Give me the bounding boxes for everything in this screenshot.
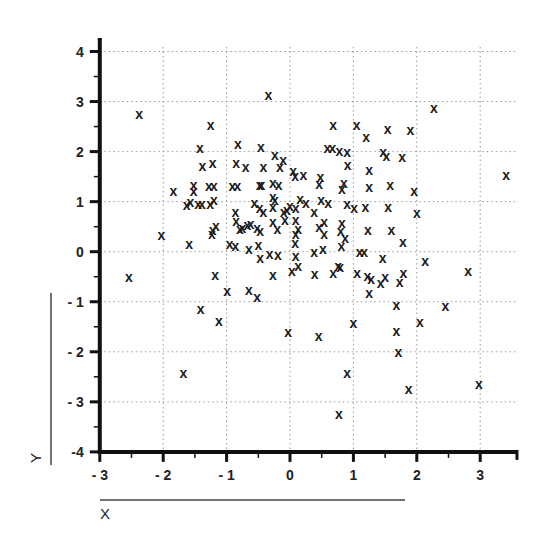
data-point-marker: x — [364, 222, 372, 238]
y-tick-label: 1 — [76, 194, 84, 210]
scatter-chart: xxxxxxxxxxxxxxxxxxxxxxxxxxxxxxxxxxxxxxxx… — [0, 0, 545, 546]
data-point-marker: x — [257, 139, 265, 155]
data-point-marker: x — [169, 183, 177, 199]
x-axis-title: X — [100, 505, 110, 522]
data-point-marker: x — [253, 289, 261, 305]
data-point-marker: x — [244, 217, 252, 233]
data-point-marker: x — [315, 176, 323, 192]
data-point-marker: x — [207, 117, 215, 133]
data-point-marker: x — [377, 275, 385, 291]
data-point-marker: x — [324, 195, 332, 211]
data-point-marker: x — [329, 117, 337, 133]
data-point-marker: x — [464, 263, 472, 279]
data-point-marker: x — [274, 247, 282, 263]
axes — [98, 39, 517, 460]
data-point-marker: x — [475, 376, 483, 392]
data-point-marker: x — [234, 136, 242, 152]
data-point-marker: x — [185, 236, 193, 252]
data-point-marker: x — [197, 301, 205, 317]
x-tick-label: 1 — [350, 467, 358, 483]
data-point-marker: x — [319, 241, 327, 257]
data-point-marker: x — [135, 106, 143, 122]
data-point-marker: x — [335, 406, 343, 422]
data-point-marker: x — [384, 121, 392, 137]
data-point-marker: x — [232, 238, 240, 254]
data-point-marker: x — [259, 204, 267, 220]
y-tick-label: - 3 — [67, 394, 84, 410]
data-point-marker: x — [258, 177, 266, 193]
data-point-marker: x — [180, 365, 188, 381]
data-point-marker: x — [281, 212, 289, 228]
data-point-marker: x — [269, 267, 277, 283]
data-point-marker: x — [365, 179, 373, 195]
grid-lines — [100, 47, 517, 452]
data-point-marker: x — [386, 177, 394, 193]
data-point-marker: x — [199, 158, 207, 174]
data-point-marker: x — [232, 155, 240, 171]
y-tick-label: - 1 — [67, 294, 84, 310]
data-point-marker: x — [344, 157, 352, 173]
data-points: xxxxxxxxxxxxxxxxxxxxxxxxxxxxxxxxxxxxxxxx… — [125, 87, 510, 422]
data-point-marker: x — [441, 298, 449, 314]
data-point-marker: x — [350, 200, 358, 216]
data-point-marker: x — [279, 152, 287, 168]
data-point-marker: x — [502, 167, 510, 183]
data-point-marker: x — [256, 250, 264, 266]
x-tick-label: 3 — [476, 467, 484, 483]
data-point-marker: x — [365, 162, 373, 178]
data-point-marker: x — [399, 234, 407, 250]
data-point-marker: x — [393, 323, 401, 339]
data-point-marker: x — [421, 253, 429, 269]
data-point-marker: x — [388, 222, 396, 238]
data-point-marker: x — [430, 100, 438, 116]
data-point-marker: x — [210, 192, 218, 208]
data-point-marker: x — [245, 282, 253, 298]
x-tick-label: - 3 — [92, 467, 109, 483]
x-tick-label: - 2 — [155, 467, 172, 483]
data-point-marker: x — [284, 324, 292, 340]
y-axis-title: Y — [27, 453, 44, 463]
data-point-marker: x — [259, 159, 267, 175]
data-point-marker: x — [211, 267, 219, 283]
x-axis-ticks: - 3- 2- 10123 — [92, 452, 485, 483]
data-point-marker: x — [353, 265, 361, 281]
data-point-marker: x — [291, 168, 299, 184]
data-point-marker: x — [334, 258, 342, 274]
x-tick-label: - 1 — [218, 467, 235, 483]
data-point-marker: x — [269, 199, 277, 215]
data-point-marker: x — [362, 129, 370, 145]
data-point-marker: x — [315, 328, 323, 344]
data-point-marker: x — [125, 269, 133, 285]
data-point-marker: x — [407, 122, 415, 138]
data-point-marker: x — [242, 159, 250, 175]
data-point-marker: x — [365, 285, 373, 301]
data-point-marker: x — [292, 226, 300, 242]
data-point-marker: x — [398, 149, 406, 165]
data-point-marker: x — [362, 199, 370, 215]
data-point-marker: x — [393, 297, 401, 313]
data-point-marker: x — [233, 178, 241, 194]
data-point-marker: x — [410, 183, 418, 199]
data-point-marker: x — [265, 87, 273, 103]
data-point-marker: x — [294, 258, 302, 274]
data-point-marker: x — [338, 215, 346, 231]
data-point-marker: x — [320, 226, 328, 242]
data-point-marker: x — [208, 226, 216, 242]
data-point-marker: x — [405, 381, 413, 397]
y-tick-label: 3 — [76, 94, 84, 110]
data-point-marker: x — [223, 283, 231, 299]
data-point-marker: x — [337, 238, 345, 254]
data-point-marker: x — [311, 266, 319, 282]
data-point-marker: x — [384, 199, 392, 215]
data-point-marker: x — [209, 155, 217, 171]
data-point-marker: x — [157, 227, 165, 243]
y-tick-label: 4 — [76, 44, 84, 60]
data-point-marker: x — [310, 244, 318, 260]
data-point-marker: x — [395, 344, 403, 360]
data-point-marker: x — [353, 117, 361, 133]
y-tick-label: -4 — [71, 444, 84, 460]
data-point-marker: x — [198, 196, 206, 212]
y-axis-ticks: -4- 3- 2- 101234 — [67, 44, 99, 460]
x-tick-label: 2 — [413, 467, 421, 483]
data-point-marker: x — [245, 241, 253, 257]
